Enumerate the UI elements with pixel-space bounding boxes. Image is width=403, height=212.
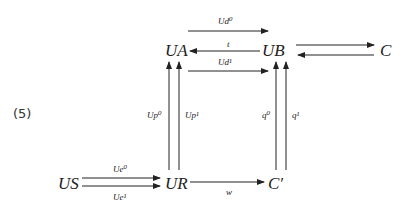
label-q1: q¹ (292, 111, 299, 120)
object-ua: UA (165, 42, 188, 59)
label-ud1: Ud¹ (218, 58, 232, 67)
label-up0: Up⁰ (147, 111, 162, 120)
object-ur: UR (165, 175, 188, 192)
label-ue0: Ue⁰ (113, 165, 127, 174)
label-q0: q⁰ (262, 111, 270, 120)
label-up1: Up¹ (185, 111, 199, 120)
object-ub: UB (262, 42, 285, 59)
label-ud0: Ud⁰ (218, 17, 233, 26)
object-c: C (380, 42, 391, 59)
object-c-prime: C′ (268, 175, 283, 192)
label-t: t (227, 40, 230, 49)
equation-number: (5) (13, 107, 31, 120)
label-ue1: Ue¹ (113, 193, 126, 202)
object-us: US (58, 175, 79, 192)
label-w: w (226, 188, 232, 197)
